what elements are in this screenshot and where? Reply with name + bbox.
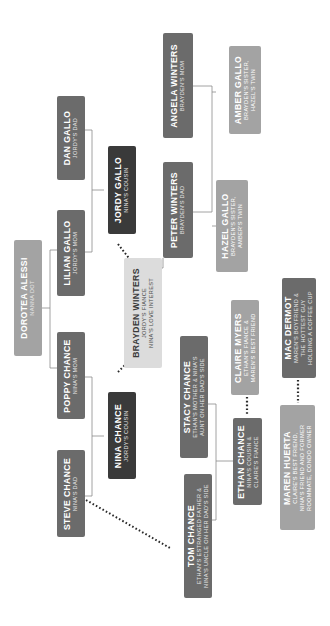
person-role: NINA'S COUSIN & <box>246 425 252 499</box>
person-peter-winters[interactable]: PETER WINTERS BRAYDEN'S DAD <box>163 162 193 258</box>
person-role: HOLDING A COFFEE CUP <box>308 291 314 365</box>
person-role: BRAYDEN'S MOM <box>180 44 186 128</box>
person-name: PETER WINTERS <box>170 172 179 248</box>
person-tom-chance[interactable]: TOM CHANCE ETHAN'S ESTRANGED FATHER & NI… <box>184 474 212 598</box>
person-hazel-gallo[interactable]: HAZEL GALLO BRAYDEN'S SISTER, AMBER'S TW… <box>216 180 248 272</box>
person-name: MAC DERMOT <box>284 291 293 365</box>
person-name: JORDY GALLO <box>114 157 123 223</box>
person-mac-dermot[interactable]: MAC DERMOT MAREN'S BOYFRIEND & THE HOTTE… <box>282 278 316 378</box>
person-jordy-gallo[interactable]: JORDY GALLO NINA'S COUSIN <box>108 146 136 234</box>
person-role: JORDY'S FIANCE <box>142 268 148 358</box>
person-nina-chance[interactable]: NINA CHANCE JORDY'S COUSIN <box>108 392 136 479</box>
person-ethan-chance[interactable]: ETHAN CHANCE NINA'S COUSIN & CLAIRE'S FI… <box>233 418 262 505</box>
person-role: NINA'S LOVE INTEREST <box>149 268 155 358</box>
person-role: JORDY'S MOM <box>73 221 79 286</box>
person-role: AMBER'S TWIN <box>238 193 244 258</box>
person-role: NINA'S MOM <box>73 339 79 412</box>
person-role: JORDY'S DAD <box>73 111 79 166</box>
person-name: CLAIRE MYERS <box>234 313 243 383</box>
person-name: ANGELA WINTERS <box>170 44 179 128</box>
person-role: MAREN'S BEST FRIEND <box>251 313 257 383</box>
person-name: ETHAN CHANCE <box>236 425 245 499</box>
person-role: CLAIRE'S BEST FRIEND, <box>293 424 299 511</box>
person-role: HAZEL'S TWIN <box>251 56 257 124</box>
person-name: STEVE CHANCE <box>63 457 72 529</box>
person-claire-myers[interactable]: CLAIRE MYERS ETHAN'S FIANCE & MAREN'S BE… <box>231 300 259 395</box>
person-role: MAREN'S BOYFRIEND & <box>294 291 300 365</box>
person-brayden-winters[interactable]: BRAYDEN WINTERS JORDY'S FIANCE NINA'S LO… <box>124 258 162 368</box>
person-name: STACY CHANCE <box>183 356 192 437</box>
person-role: ETHAN'S ESTRANGED FATHER & <box>197 484 203 588</box>
person-lilian-gallo[interactable]: LILIAN GALLO JORDY'S MOM <box>57 210 85 296</box>
person-role: NINA'S FRIEND AND FORMER <box>300 424 306 511</box>
person-name: AMBER GALLO <box>234 56 243 124</box>
person-role: ETHAN'S FIANCE & <box>244 313 250 383</box>
person-role: ETHAN'S MOTHER & NINA'S <box>193 356 199 437</box>
person-name: LILIAN GALLO <box>63 221 72 286</box>
person-maren-huerta[interactable]: MAREN HUERTA CLAIRE'S BEST FRIEND, NINA'… <box>280 405 315 530</box>
person-role: BRAYDEN'S SISTER, <box>244 56 250 124</box>
person-steve-chance[interactable]: STEVE CHANCE NINA'S DAD <box>57 450 85 537</box>
person-dorotea-alessi[interactable]: DOROTEA ALESSI NANNA DOT <box>14 240 42 356</box>
person-name: MAREN HUERTA <box>283 424 292 511</box>
person-name: POPPY CHANCE <box>63 339 72 412</box>
person-poppy-chance[interactable]: POPPY CHANCE NINA'S MOM <box>57 332 85 419</box>
person-angela-winters[interactable]: ANGELA WINTERS BRAYDEN'S MOM <box>163 33 193 138</box>
person-role: JORDY'S COUSIN <box>124 403 130 467</box>
person-dan-gallo[interactable]: DAN GALLO JORDY'S DAD <box>57 96 85 180</box>
person-role: NANNA DOT <box>30 257 36 338</box>
person-role: ROOMMATE, CONDO OWNER <box>306 424 312 511</box>
person-role: NINA'S COUSIN <box>124 157 130 223</box>
person-role: CLAIRE'S FIANCE <box>253 425 259 499</box>
person-name: TOM CHANCE <box>187 484 196 588</box>
person-role: AUNT ON HER DAD'S SIDE <box>200 356 206 437</box>
person-name: DAN GALLO <box>63 111 72 166</box>
person-role: NINA'S UNCLE ON HER DAD'S SIDE <box>204 484 210 588</box>
person-role: THE HOTTEST GUY <box>301 291 307 365</box>
person-role: BRAYDEN'S DAD <box>180 172 186 248</box>
person-amber-gallo[interactable]: AMBER GALLO BRAYDEN'S SISTER, HAZEL'S TW… <box>229 46 261 134</box>
person-stacy-chance[interactable]: STACY CHANCE ETHAN'S MOTHER & NINA'S AUN… <box>180 336 208 458</box>
person-role: BRAYDEN'S SISTER, <box>231 193 237 258</box>
person-role: NINA'S DAD <box>73 457 79 529</box>
family-tree-diagram: DAN GALLO JORDY'S DAD LILIAN GALLO JORDY… <box>0 0 330 626</box>
person-name: BRAYDEN WINTERS <box>132 268 141 358</box>
person-name: NINA CHANCE <box>114 403 123 467</box>
person-name: DOROTEA ALESSI <box>20 257 29 338</box>
person-name: HAZEL GALLO <box>221 193 230 258</box>
